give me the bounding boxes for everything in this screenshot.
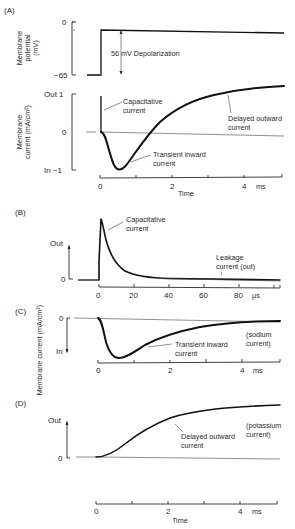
svg-text:60: 60 — [199, 291, 208, 300]
potassium-annotation-l1: (potassium — [246, 421, 281, 430]
svg-text:ms: ms — [253, 366, 263, 375]
zero-baseline — [76, 457, 280, 459]
svg-text:0: 0 — [96, 366, 101, 375]
panel-d-time-axis: 0 2 4 ms Time — [94, 501, 277, 525]
panel-c-time-axis: 0 2 4 ms — [96, 359, 280, 375]
svg-text:0: 0 — [96, 291, 101, 300]
sodium-annotation-l1: (sodium — [246, 330, 272, 339]
capacitative-annotation-l1: Capacitative — [123, 97, 163, 106]
ytick-0mv: 0 — [62, 18, 67, 27]
panel-d: (D) Out 0 Delayed outward current (potas… — [15, 399, 281, 525]
svg-text:2: 2 — [166, 507, 171, 516]
ytick-out-1: Out 1 — [44, 90, 64, 99]
svg-text:(mV): (mV) — [31, 40, 40, 56]
delayed-annotation-l1: Delayed outward — [181, 432, 235, 441]
time-xlabel: Time — [178, 189, 194, 198]
svg-text:0: 0 — [94, 507, 99, 516]
ytick-neg65mv: −65 — [54, 71, 68, 80]
svg-text:Membrane current (mA/cm²): Membrane current (mA/cm²) — [35, 305, 44, 395]
ytick-zero: 0 — [61, 275, 66, 284]
svg-text:current (mA/cm²): current (mA/cm²) — [23, 105, 32, 159]
panel-a-label: (A) — [4, 6, 15, 15]
zero-baseline — [86, 132, 284, 136]
leakage-annotation-l1: Leakage — [216, 253, 244, 262]
panel-c: (C) 0 In Transient inward current (sodiu… — [15, 307, 280, 375]
panel-d-label: (D) — [15, 399, 26, 408]
svg-text:80: 80 — [234, 291, 243, 300]
panel-b-time-axis: 0 20 40 60 80 μs — [96, 284, 280, 300]
svg-text:4: 4 — [242, 182, 247, 191]
ytick-out: Out — [48, 416, 62, 425]
ytick-out: Out — [50, 239, 64, 248]
transient-annotation-l2: current — [153, 159, 175, 168]
ytick-0: 0 — [62, 128, 67, 137]
panel-a: (A) Membrane potential (mV) 0 −65 56 mV … — [4, 6, 284, 198]
capacitative-annotation-l2: current — [123, 106, 145, 115]
shared-current-ylabel: Membrane current (mA/cm²) — [35, 305, 44, 395]
svg-text:ms: ms — [256, 182, 266, 191]
capacitative-annotation-l1: Capacitative — [126, 215, 166, 224]
svg-text:20: 20 — [129, 291, 138, 300]
svg-text:4: 4 — [238, 507, 243, 516]
panel-d-y-axis — [67, 422, 70, 458]
svg-text:ms: ms — [252, 507, 262, 516]
svg-text:40: 40 — [164, 291, 173, 300]
depolarization-annotation: 56 mV Depolarization — [111, 49, 180, 58]
sodium-annotation-l2: current) — [246, 339, 271, 348]
panel-c-y-axis — [67, 318, 70, 352]
svg-text:μs: μs — [252, 291, 260, 300]
transient-annotation-l1: Transient inward — [175, 340, 228, 349]
potential-ylabel: Membrane potential (mV) — [15, 31, 40, 65]
ytick-in: In — [56, 347, 63, 356]
ytick-in-neg1: In −1 — [44, 166, 63, 175]
current-y-axis — [72, 94, 76, 170]
panel-b-y-axis — [69, 246, 73, 279]
svg-text:4: 4 — [240, 366, 245, 375]
svg-text:0: 0 — [98, 182, 103, 191]
transient-annotation-l1: Transient inward — [153, 150, 206, 159]
time-xlabel: Time — [172, 516, 188, 525]
panel-a-time-axis: 0 2 4 ms Time — [98, 174, 282, 198]
delayed-annotation-l2: current — [228, 123, 250, 132]
figure-canvas: (A) Membrane potential (mV) 0 −65 56 mV … — [0, 0, 295, 529]
leakage-annotation-l2: current (out) — [216, 262, 255, 271]
ytick-zero: 0 — [58, 454, 63, 463]
transient-annotation-l2: current — [175, 349, 197, 358]
ytick-zero: 0 — [59, 314, 64, 323]
current-ylabel: Membrane current (mA/cm²) — [15, 105, 32, 159]
potassium-annotation-l2: current) — [246, 430, 271, 439]
delayed-annotation-l1: Delayed outward — [228, 114, 282, 123]
panel-b-label: (B) — [15, 208, 26, 217]
svg-text:2: 2 — [170, 182, 175, 191]
capacitative-annotation-l2: current — [126, 224, 148, 233]
svg-text:2: 2 — [168, 366, 173, 375]
delayed-annotation-l2: current — [181, 441, 203, 450]
panel-c-label: (C) — [15, 307, 26, 316]
panel-b: (B) Out 0 Capacitative current Leakage c… — [15, 208, 280, 300]
